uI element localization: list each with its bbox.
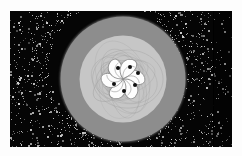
elliptic-fixed-point (112, 82, 116, 86)
elliptic-fixed-point (122, 89, 126, 93)
phase-space-figure (0, 0, 242, 156)
sampling-seam-shade (214, 11, 232, 147)
core-arm-group (101, 56, 145, 102)
elliptic-fixed-point (116, 66, 120, 70)
elliptic-fixed-point (133, 83, 137, 87)
chaotic-sea-region (10, 11, 232, 147)
elliptic-fixed-point (128, 65, 132, 69)
core-island-chain (92, 48, 154, 110)
elliptic-fixed-point (136, 71, 140, 75)
